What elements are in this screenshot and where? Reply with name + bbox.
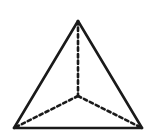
figure-canvas: Triangular pyramid (tetrahedron) wirefra… xyxy=(0,0,154,139)
tetrahedron-diagram: Triangular pyramid (tetrahedron) wirefra… xyxy=(0,0,154,139)
